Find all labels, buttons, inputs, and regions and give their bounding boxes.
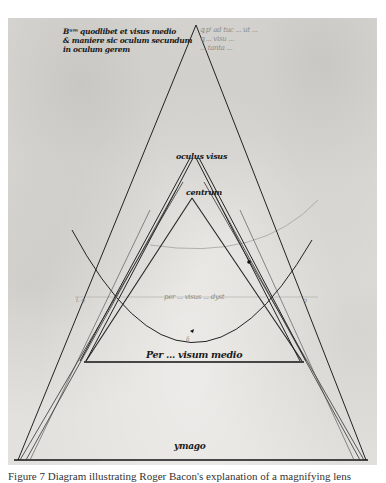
base-label: Per ... visum medio — [146, 349, 242, 360]
gloss-line: ꝗ pᵗ ad tuc ... ut ... — [200, 26, 258, 35]
bottom-label: ymago — [174, 441, 205, 451]
gloss-line: ꝗ ... visu ... — [200, 35, 258, 44]
top-left-gloss: Bᵘᵐ quodlibet et visus medio & maniere s… — [63, 27, 192, 54]
figure-caption: Figure 7 Diagram illustrating Roger Baco… — [8, 470, 386, 483]
centrum-right — [192, 198, 302, 361]
outer-left-edge — [18, 25, 196, 460]
ray-left-2 — [26, 190, 176, 460]
ray-left-1 — [20, 182, 183, 460]
oculus-left-b — [80, 158, 190, 361]
apex-upper-label: oculus visus — [176, 151, 227, 161]
apex-lower-label: centrum — [186, 187, 222, 197]
ink-blot — [247, 260, 251, 264]
gloss-line: Bᵘᵐ quodlibet et visus medio — [63, 27, 192, 36]
gloss-line: ... tanta ... — [200, 44, 258, 53]
gloss-line: & maniere sic oculum secundum — [63, 36, 192, 45]
gloss-line: in oculum gerem — [63, 45, 192, 54]
ray-right-2 — [212, 190, 360, 460]
tick-right-label: ꝯ — [303, 296, 307, 304]
ray-left-3 — [30, 210, 150, 460]
arc-arrow-mark — [190, 329, 194, 333]
ray-right-3 — [240, 210, 354, 460]
arc-mark-label: δ — [186, 335, 189, 342]
tick-left-label: l. ꝯ — [76, 296, 85, 304]
lower-arc — [72, 230, 312, 343]
oculus-left-a — [86, 158, 193, 361]
chord-label: per ... visus ... dyst — [164, 293, 224, 301]
top-right-gloss: ꝗ pᵗ ad tuc ... ut ... ꝗ ... visu ... ..… — [200, 26, 258, 53]
